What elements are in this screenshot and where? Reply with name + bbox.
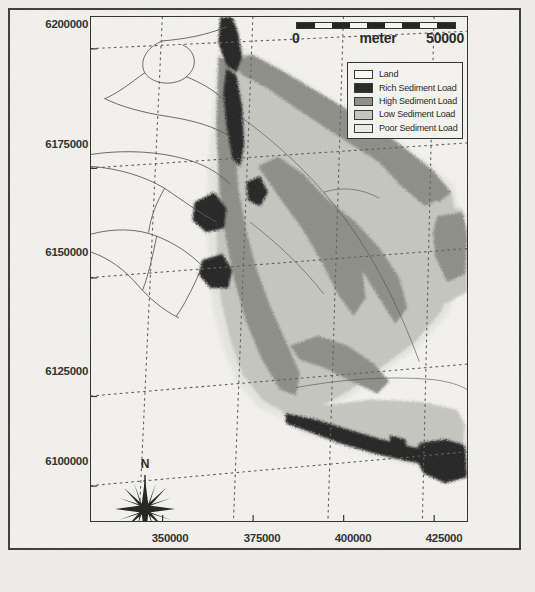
x-tick-label: 375000: [244, 532, 281, 544]
y-tick-label: 6200000: [45, 18, 88, 30]
legend-label-rich-sediment-load: Rich Sediment Load: [379, 84, 456, 93]
scale-bar-segment: [385, 23, 403, 28]
x-tick-label: 400000: [335, 532, 372, 544]
scanned-map-page: 6200000 6175000 6150000 6125000 6100000 …: [0, 0, 535, 592]
scale-bar: 0 meter 50000: [296, 22, 456, 54]
legend-label-land: Land: [379, 70, 398, 79]
scale-bar-segment: [350, 23, 368, 28]
y-tick-label: 6125000: [45, 365, 88, 377]
y-tick-label: 6100000: [45, 455, 88, 467]
y-axis-labels: 6200000 6175000 6150000 6125000 6100000: [14, 0, 88, 592]
x-axis-labels: 350000 375000 400000 425000: [0, 532, 535, 552]
scale-bar-track: [296, 22, 456, 29]
scale-bar-segment: [332, 23, 350, 28]
map-frame[interactable]: 0 meter 50000 Land Rich Sediment Load Hi…: [90, 16, 468, 522]
y-tick-label: 6150000: [45, 246, 88, 258]
north-arrow: N: [109, 457, 181, 522]
legend-swatch-low-sediment-load: [354, 110, 373, 120]
scale-bar-segment: [315, 23, 333, 28]
x-tick-label: 425000: [426, 532, 463, 544]
scale-bar-segment: [437, 23, 455, 28]
scale-bar-segment: [297, 23, 315, 28]
scale-bar-segment: [420, 23, 438, 28]
scale-bar-segment: [367, 23, 385, 28]
legend-item-poor-sediment-load[interactable]: Poor Sediment Load: [354, 122, 457, 135]
legend-label-low-sediment-load: Low Sediment Load: [379, 110, 455, 119]
scale-bar-labels: 0 meter 50000: [292, 30, 464, 50]
legend-item-land[interactable]: Land: [354, 68, 457, 81]
legend-swatch-land: [354, 70, 373, 80]
compass-rose-icon: [109, 473, 181, 522]
legend-swatch-poor-sediment-load: [354, 124, 373, 134]
scale-bar-unit-label: meter: [359, 30, 396, 46]
legend-label-poor-sediment-load: Poor Sediment Load: [379, 124, 457, 133]
legend-swatch-rich-sediment-load: [354, 83, 373, 93]
scale-bar-max-label: 50000: [426, 30, 464, 46]
north-label: N: [141, 457, 150, 471]
legend-item-rich-sediment-load[interactable]: Rich Sediment Load: [354, 81, 457, 94]
x-tick-label: 350000: [152, 532, 189, 544]
legend-swatch-high-sediment-load: [354, 97, 373, 107]
y-tick-label: 6175000: [45, 138, 88, 150]
legend-item-low-sediment-load[interactable]: Low Sediment Load: [354, 108, 457, 121]
legend-item-high-sediment-load[interactable]: High Sediment Load: [354, 95, 457, 108]
scale-bar-segment: [402, 23, 420, 28]
scale-bar-min-label: 0: [292, 30, 300, 46]
map-legend[interactable]: Land Rich Sediment Load High Sediment Lo…: [347, 62, 463, 139]
legend-label-high-sediment-load: High Sediment Load: [379, 97, 457, 106]
